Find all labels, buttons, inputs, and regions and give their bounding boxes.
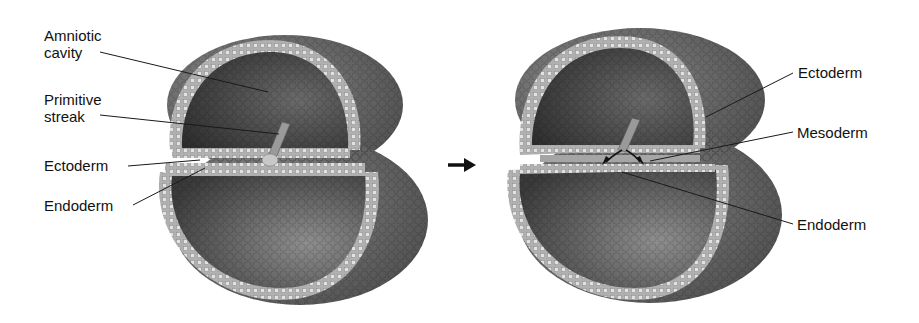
label-ectoderm-left: Ectoderm (44, 157, 108, 174)
label-amniotic-cavity-line2: cavity (44, 44, 82, 61)
label-primitive-streak: Primitive streak (44, 91, 124, 125)
label-amniotic-cavity-line1: Amniotic (44, 27, 102, 44)
label-amniotic-cavity: Amniotic cavity (44, 27, 124, 61)
label-primitive-streak-line1: Primitive (44, 91, 102, 108)
right-arrow-icon (448, 158, 476, 172)
label-endoderm-right: Endoderm (797, 216, 866, 233)
label-ectoderm-right: Ectoderm (798, 64, 862, 81)
right-embryo (507, 28, 782, 303)
gastrulation-diagram: Amniotic cavity Primitive streak Ectoder… (0, 0, 919, 323)
label-mesoderm-right: Mesoderm (797, 124, 868, 141)
label-primitive-streak-line2: streak (44, 108, 85, 125)
embryo-illustrations (0, 0, 919, 323)
label-endoderm-left: Endoderm (44, 197, 113, 214)
